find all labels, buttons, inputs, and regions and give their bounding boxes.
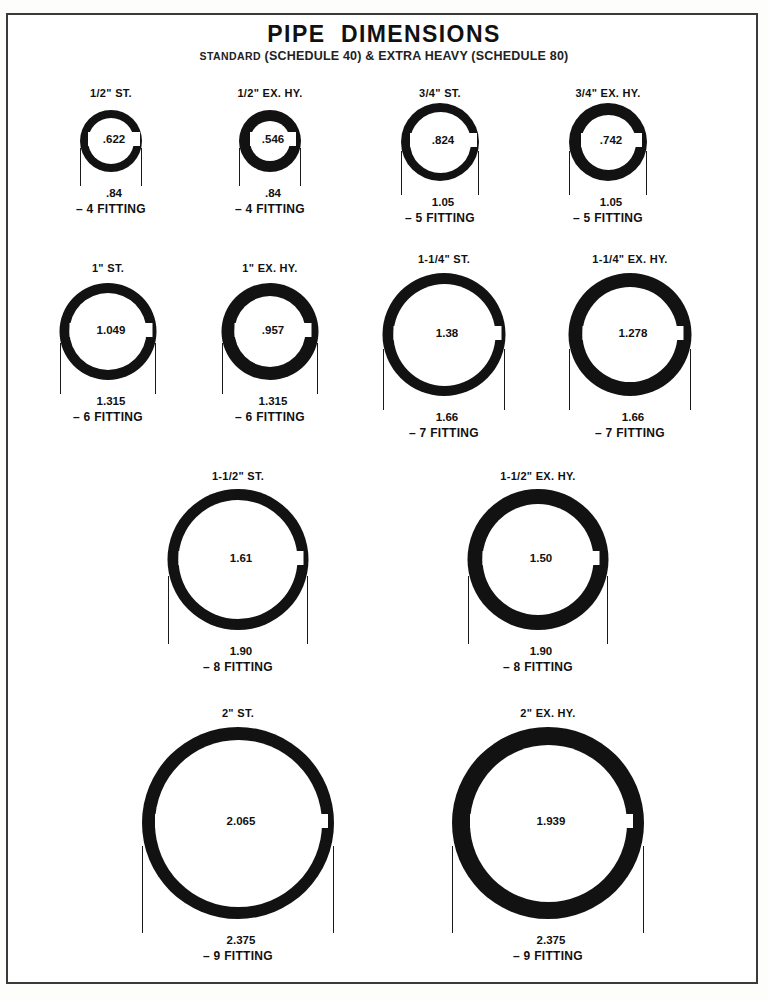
pipe-size-label: 1" ST. (30, 262, 187, 274)
pipe-cross-section: .742 (569, 103, 647, 181)
inside-diameter-dimension: 2.065 (155, 817, 322, 829)
inside-diameter-value: 1.278 (583, 326, 684, 340)
outside-diameter-value: 1.90 (168, 644, 315, 658)
title-block: PIPE DIMENSIONS STANDARD (SCHEDULE 40) &… (8, 21, 760, 64)
pipe-size-label: 1/2" EX. HY. (195, 87, 345, 99)
fitting-size-label: – 5 FITTING (533, 211, 683, 225)
inside-diameter-value: 2.065 (155, 814, 328, 828)
extension-line-right (333, 846, 334, 945)
fitting-size-label: – 9 FITTING (422, 949, 674, 963)
inside-diameter-value: 1.50 (483, 551, 600, 565)
pipe-size-label: 1" EX. HY. (192, 262, 349, 274)
fitting-size-label: – 7 FITTING (353, 426, 536, 440)
inside-diameter-value: 1.049 (70, 323, 153, 337)
outside-diameter-value: 1.90 (468, 644, 615, 658)
page-subtitle: STANDARD (SCHEDULE 40) & EXTRA HEAVY (SC… (8, 48, 760, 64)
pipe-cross-section: .957 (222, 283, 319, 380)
pipe-cross-section: 1.939 (452, 727, 644, 919)
pipe-cross-section: 2.065 (142, 727, 334, 919)
inside-diameter-dimension: 1.38 (393, 329, 495, 341)
extension-line-left (452, 846, 453, 945)
inside-diameter-value: .824 (410, 133, 477, 147)
pipe-size-label: 1-1/4" EX. HY. (539, 253, 722, 265)
fitting-size-label: – 5 FITTING (365, 211, 515, 225)
outside-diameter-value: 1.05 (569, 195, 653, 209)
fitting-size-label: – 6 FITTING (30, 410, 187, 424)
diagram-frame: PIPE DIMENSIONS STANDARD (SCHEDULE 40) &… (6, 13, 758, 984)
pipe-size-label: 1-1/2" EX. HY. (438, 470, 639, 482)
inside-diameter-value: .957 (235, 323, 312, 337)
inside-diameter-dimension: .957 (235, 326, 306, 338)
inside-diameter-dimension: .622 (88, 135, 134, 147)
pipe-cross-section: .622 (80, 110, 142, 172)
inside-diameter-dimension: 1.939 (470, 817, 627, 829)
outside-diameter-value: 1.66 (383, 410, 512, 424)
outside-diameter-value: 2.375 (452, 933, 650, 947)
pipe-size-label: 1/2" ST. (36, 87, 186, 99)
outside-diameter-value: 1.315 (60, 394, 163, 408)
pipe-size-label: 1-1/4" ST. (353, 253, 536, 265)
pipe-cross-section: 1.50 (468, 489, 609, 630)
fitting-size-label: – 8 FITTING (138, 660, 339, 674)
pipe-cross-section: .546 (239, 110, 301, 172)
outside-diameter-value: .84 (80, 186, 148, 200)
outside-diameter-value: 1.315 (222, 394, 325, 408)
inside-diameter-value: .742 (581, 133, 642, 147)
pipe-cross-section: 1.61 (168, 489, 309, 630)
inside-diameter-value: 1.38 (393, 326, 501, 340)
pipe-cross-section: 1.278 (569, 273, 692, 396)
pipe-size-label: 2" ST. (112, 707, 364, 719)
inside-diameter-value: 1.939 (470, 814, 633, 828)
fitting-size-label: – 6 FITTING (192, 410, 349, 424)
fitting-size-label: – 9 FITTING (112, 949, 364, 963)
subtitle-standard: STANDARD (200, 50, 261, 62)
fitting-size-label: – 4 FITTING (195, 202, 345, 216)
outside-diameter-value: 2.375 (142, 933, 340, 947)
extension-line-left (142, 846, 143, 945)
pipe-size-label: 2" EX. HY. (422, 707, 674, 719)
pipe-cross-section: .824 (401, 103, 479, 181)
pipe-size-label: 1-1/2" ST. (138, 470, 339, 482)
inside-diameter-dimension: .742 (581, 136, 636, 148)
fitting-size-label: – 7 FITTING (539, 426, 722, 440)
extension-line-right (643, 846, 644, 945)
page-title: PIPE DIMENSIONS (8, 21, 760, 47)
pipe-size-label: 3/4" ST. (365, 87, 515, 99)
pipe-size-label: 3/4" EX. HY. (533, 87, 683, 99)
inside-diameter-dimension: 1.278 (583, 329, 678, 341)
subtitle-schedules: (SCHEDULE 40) & EXTRA HEAVY (SCHEDULE 80… (265, 49, 569, 63)
pipe-cross-section: 1.38 (383, 273, 506, 396)
fitting-size-label: – 8 FITTING (438, 660, 639, 674)
pipe-cross-section: 1.049 (60, 283, 157, 380)
fitting-size-label: – 4 FITTING (36, 202, 186, 216)
inside-diameter-dimension: 1.50 (483, 554, 594, 566)
outside-diameter-value: 1.05 (401, 195, 485, 209)
inside-diameter-value: .546 (250, 132, 296, 146)
outside-diameter-value: 1.66 (569, 410, 698, 424)
pipe-dimensions-sheet: PIPE DIMENSIONS STANDARD (SCHEDULE 40) &… (0, 0, 769, 1000)
outside-diameter-value: .84 (239, 186, 307, 200)
inside-diameter-dimension: 1.61 (179, 554, 298, 566)
inside-diameter-dimension: 1.049 (70, 326, 147, 338)
inside-diameter-dimension: .824 (410, 136, 471, 148)
inside-diameter-value: .622 (88, 132, 140, 146)
inside-diameter-dimension: .546 (250, 135, 290, 147)
inside-diameter-value: 1.61 (179, 551, 304, 565)
